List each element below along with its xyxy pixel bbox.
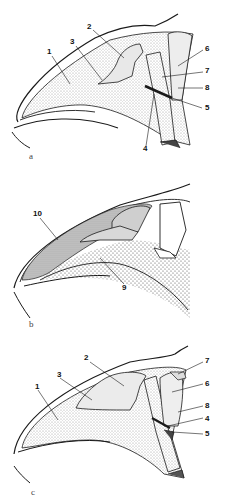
panel-c: 1 2 3 7 6 8 4 5 c [0,328,225,499]
panel-a: 1 2 3 4 5 6 7 8 a [0,0,225,160]
label-8: 8 [205,402,209,410]
label-1: 1 [47,48,51,56]
label-4: 4 [205,415,209,423]
claw-diagram-b [0,160,225,328]
label-3: 3 [70,38,74,46]
label-6: 6 [205,380,209,388]
label-4: 4 [143,145,147,153]
label-5: 5 [205,104,209,112]
label-2: 2 [87,23,91,31]
label-6: 6 [205,45,209,53]
label-9: 9 [122,284,126,292]
claw-diagram-a [0,0,225,160]
label-5: 5 [205,430,209,438]
panel-b: 10 9 b [0,160,225,328]
label-10: 10 [33,210,42,218]
label-8: 8 [205,84,209,92]
label-2: 2 [84,354,88,362]
label-3: 3 [57,371,61,379]
panel-letter-c: c [31,488,35,497]
label-7: 7 [205,357,209,365]
claw-diagram-c [0,328,225,499]
label-1: 1 [35,383,39,391]
label-7: 7 [205,67,209,75]
